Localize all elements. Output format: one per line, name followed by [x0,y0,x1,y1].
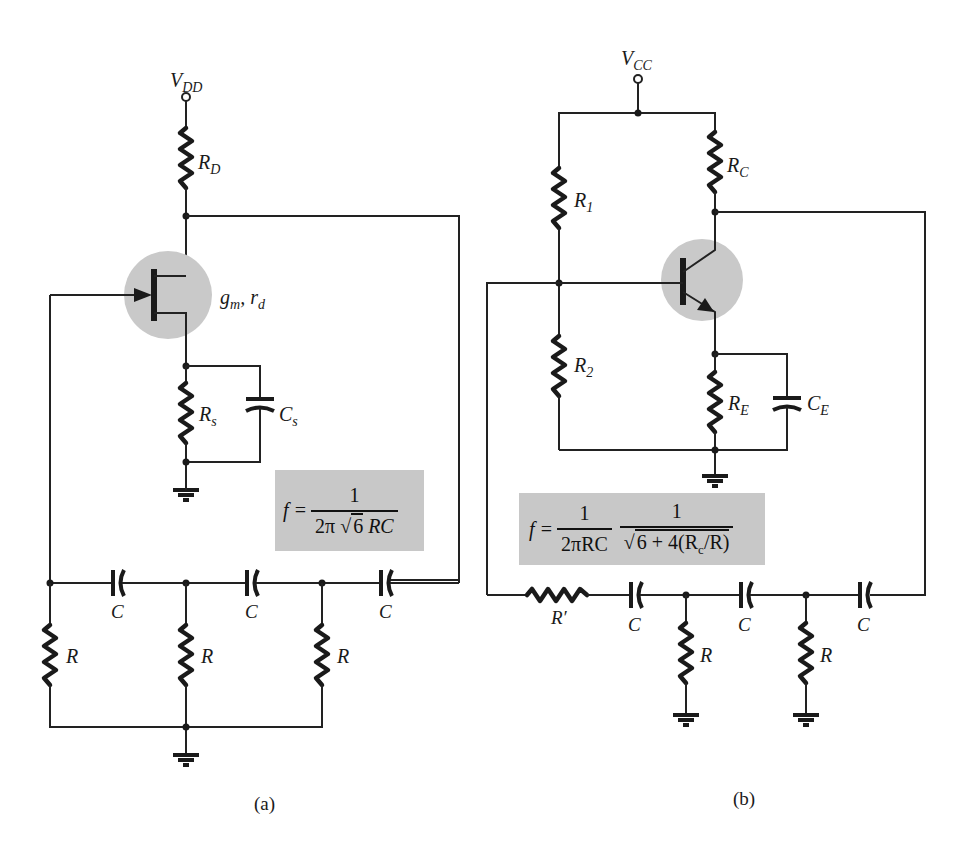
ladder-resistor-1 [44,625,56,685]
ladder-cap-label-2: C [245,602,258,621]
resistor-r2 [553,336,565,396]
fet-params-label: gm, rd [220,287,265,312]
resistor-rs [180,383,192,443]
ground-icon [702,476,728,486]
vdd-label: VDD [170,70,202,95]
ce-label: CE [807,393,829,418]
ladder-cap-label-1: C [111,602,124,621]
rs-label: Rs [199,404,217,429]
ladder-res-label-1: R [66,646,78,666]
re-label: RE [728,393,749,418]
ground-icon [173,755,199,765]
vcc-terminal [634,75,642,83]
formula-box-b: f = 1 2πRC 1 √6 + 4(Rc/R) [519,493,765,565]
ladder-capacitor-3 [860,582,871,608]
ladder-resistor-1 [680,623,692,683]
resistor-rc [709,132,721,192]
formula-fraction-2: 1 √6 + 4(Rc/R) [620,500,734,558]
caption-a: (a) [254,793,275,815]
resistor-r1 [553,168,565,228]
ladder-cap-label-2: C [738,615,751,634]
ladder-resistor-2 [800,623,812,683]
resistor-r-prime [527,589,587,601]
rd-label: RD [198,152,220,177]
ground-icon [673,715,699,725]
ladder-res-label-2: R [201,646,213,666]
r-prime-label: R′ [551,608,567,627]
ladder-res-label-1: R [700,645,712,665]
ground-icon [173,490,199,500]
ladder-res-label-3: R [337,646,349,666]
ladder-cap-label-3: C [857,615,870,634]
formula-fraction: 1 2π √6 RC [311,484,398,538]
formula-lhs: f = [529,518,553,541]
cs-label: Cs [279,404,298,429]
formula-lhs: f = [283,499,307,522]
ladder-cap-label-3: C [379,602,392,621]
formula-box-a: f = 1 2π √6 RC [275,470,424,551]
resistor-rd [180,128,192,188]
formula-fraction-1: 1 2πRC [557,502,612,556]
ladder-resistor-3 [316,625,328,685]
resistor-re [709,372,721,432]
vcc-label: VCC [621,48,652,73]
ground-icon [793,715,819,725]
panel-a-circuit [44,93,459,765]
ladder-res-label-2: R [820,645,832,665]
r1-label: R1 [574,190,593,215]
ladder-cap-label-1: C [628,615,641,634]
r2-label: R2 [574,355,593,380]
ladder-resistor-2 [180,625,192,685]
rc-label: RC [727,155,749,180]
caption-b: (b) [733,788,755,810]
circuit-diagram [0,0,962,851]
